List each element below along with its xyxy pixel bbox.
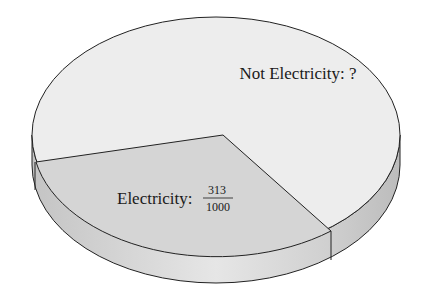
label-not-electricity: Not Electricity: ? (239, 64, 356, 83)
label-electricity-denominator: 1000 (206, 200, 230, 214)
label-electricity-numerator: 313 (208, 183, 226, 197)
pie-chart: Not Electricity: ? Electricity: 313 1000 (0, 0, 432, 296)
label-electricity: Electricity: (117, 189, 193, 208)
